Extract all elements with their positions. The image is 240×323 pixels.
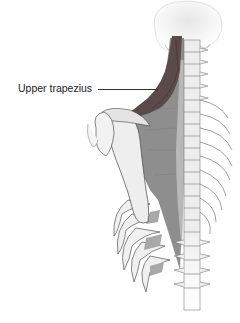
anatomy-illustration	[0, 0, 240, 323]
ribs-right	[200, 100, 232, 234]
leader-line	[98, 89, 158, 90]
humerus-head	[88, 112, 115, 156]
label-upper-trapezius: Upper trapezius	[18, 82, 92, 94]
